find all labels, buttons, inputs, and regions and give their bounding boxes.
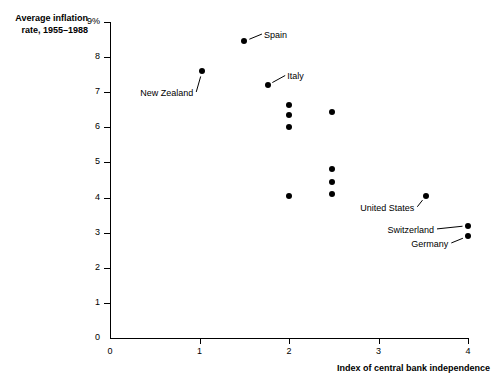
leader-line-germany [0, 0, 494, 385]
scatter-chart: Average inflation rate, 1955–1988 Index … [0, 0, 494, 385]
